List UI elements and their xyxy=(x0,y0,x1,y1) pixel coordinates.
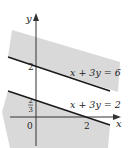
fraction-denominator: 3 xyxy=(29,106,33,114)
inequality-graph: y x 0 2 2 2 3 x + 3y = 6 x + 3y = 2 xyxy=(0,0,130,148)
origin-label: 0 xyxy=(27,121,33,131)
x-tick-2-label: 2 xyxy=(84,121,90,131)
y-tick-2-label: 2 xyxy=(28,62,34,72)
x-axis-label: x xyxy=(116,118,122,129)
upper-shaded-region xyxy=(8,30,120,92)
graph-canvas: y x 0 2 2 2 3 x + 3y = 6 x + 3y = 2 xyxy=(0,0,130,148)
equation-label-6: x + 3y = 6 xyxy=(70,67,121,78)
y-tick-two-thirds-label: 2 3 xyxy=(28,97,33,114)
y-axis-label: y xyxy=(25,13,32,24)
equation-label-2: x + 3y = 2 xyxy=(70,99,121,110)
fraction-numerator: 2 xyxy=(29,97,33,105)
y-axis-arrow-icon xyxy=(33,13,39,21)
